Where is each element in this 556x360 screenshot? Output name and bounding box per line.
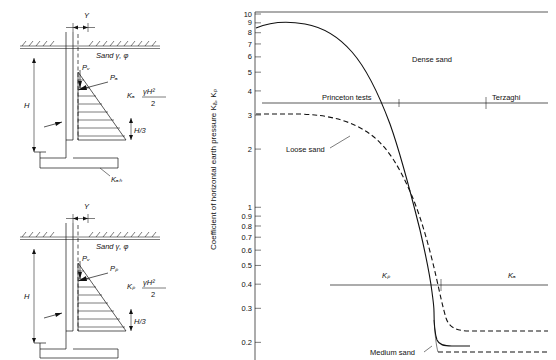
chart-y-ticks: 109876543210.90.80.70.60.50.40.30.2: [242, 10, 261, 347]
resultant-label-top: Pₐ: [110, 73, 118, 82]
third-height-label-top: H/3: [134, 126, 147, 135]
chart-y-tick-label: 7: [248, 40, 252, 49]
chart-y-tick-label: 2: [248, 145, 252, 154]
wall-height-label-top: H: [24, 101, 30, 110]
passive-earth-pressure-wall-diagram: Y Sand γ, φ H Pₚ P: [20, 202, 166, 358]
annotation-ka: Kₐ: [508, 271, 516, 280]
annotation-dense-sand: Dense sand: [412, 55, 452, 64]
soil-label-top: Sand γ, φ: [96, 51, 129, 60]
chart-y-tick-label: 4: [248, 87, 252, 96]
chart-y-tick-label: 8: [248, 28, 252, 37]
pressure-denominator-top: 2: [151, 99, 155, 108]
pressure-denominator-bottom: 2: [151, 290, 155, 299]
pressure-expression-top: γH²: [143, 87, 155, 96]
chart-y-tick-label: 0.5: [242, 261, 252, 270]
pressure-expression-bottom: γH²: [143, 278, 155, 287]
chart-y-tick-label: 0.3: [242, 304, 252, 313]
chart-y-tick-label: 0.6: [242, 246, 252, 255]
wall-height-label-bottom: H: [24, 292, 30, 301]
vertical-component-label-bottom: Pᵥ: [82, 254, 90, 263]
soil-label-bottom: Sand γ, φ: [96, 242, 129, 251]
annotation-terzaghi: Terzaghi: [492, 93, 521, 102]
third-height-label-bottom: H/3: [134, 317, 147, 326]
chart-y-tick-label: 5: [248, 68, 252, 77]
chart-y-tick-label: 0.2: [242, 338, 252, 347]
earth-pressure-coefficient-chart: 109876543210.90.80.70.60.50.40.30.2 Coef…: [209, 10, 548, 360]
chart-y-tick-label: 9: [248, 18, 252, 27]
coefficient-label-top: Kₐ: [127, 91, 135, 100]
chart-y-tick-label: 0.9: [242, 212, 252, 221]
y-marker-label-top: Y: [84, 11, 90, 20]
chart-y-tick-label: 6: [248, 52, 252, 61]
chart-y-tick-label: 3: [248, 111, 252, 120]
chart-y-tick-label: 1: [248, 203, 252, 212]
figure-root: Y Sand γ, φ H: [0, 0, 556, 360]
base-coefficient-label-top: Kₐₕ: [111, 175, 123, 184]
chart-y-tick-label: 0.8: [242, 222, 252, 231]
chart-y-tick-label: 0.7: [242, 233, 252, 242]
annotation-medium-sand: Medium sand: [370, 348, 415, 357]
coefficient-label-bottom: Kₚ: [127, 282, 136, 291]
annotation-loose-sand: Loose sand: [286, 145, 325, 154]
vertical-component-label-top: Pᵥ: [82, 63, 90, 72]
annotation-princeton-tests: Princeton tests: [322, 93, 372, 102]
resultant-label-bottom: Pₚ: [110, 264, 119, 273]
chart-y-axis-title: Coefficient of horizontal earth pressure…: [209, 89, 218, 250]
annotation-kp: Kₚ: [382, 271, 391, 280]
y-marker-label-bottom: Y: [84, 202, 90, 211]
dense-sand-active-branch: [434, 312, 470, 346]
figure-svg: Y Sand γ, φ H: [0, 0, 556, 360]
chart-y-tick-label: 10: [244, 10, 252, 19]
chart-y-tick-label: 0.4: [242, 280, 252, 289]
dense-sand-curve: [256, 22, 434, 312]
active-earth-pressure-wall-diagram: Y Sand γ, φ H: [20, 11, 166, 184]
